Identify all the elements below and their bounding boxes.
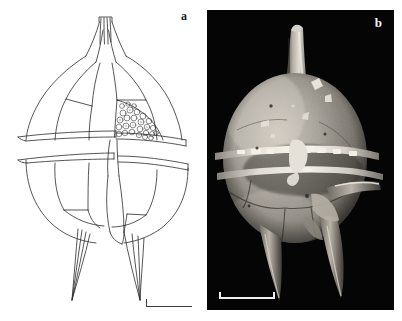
panel-a-label: a: [181, 10, 187, 22]
cingulum-upper-list: [18, 131, 186, 146]
scale-bar-a-line: [146, 306, 192, 307]
scale-bar-panel-a: [146, 297, 192, 309]
line-drawing-illustration: [0, 0, 201, 321]
cingulum-lower-list: [18, 153, 188, 170]
epitheca-outline: [26, 56, 182, 140]
scale-bar-b-left-tick: [219, 292, 221, 299]
figure-plate: a: [0, 0, 402, 321]
panel-b-label: b: [375, 16, 382, 29]
ventral-flange: [110, 232, 124, 244]
sulcal-area: [107, 140, 124, 232]
scale-bar-panel-b: [219, 291, 275, 299]
scale-bar-b-right-tick: [273, 292, 275, 299]
sem-micrograph-illustration: [207, 10, 394, 310]
reticulate-plate-region: [115, 100, 164, 140]
panel-a-line-drawing: a: [0, 0, 201, 321]
antapical-spine-left: [72, 229, 90, 300]
scale-bar-b-line: [219, 297, 275, 299]
apical-horn-outline: [86, 17, 126, 62]
panel-b-sem-micrograph: b: [207, 10, 394, 310]
